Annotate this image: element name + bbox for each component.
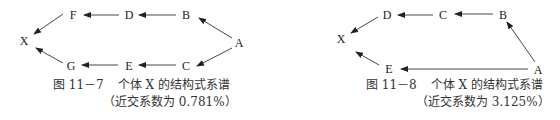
figure-number: 图 11－8 — [366, 78, 417, 92]
edge-d-x — [351, 17, 378, 33]
node-x: X — [337, 33, 346, 45]
node-a: A — [534, 64, 543, 76]
node-c: C — [439, 9, 447, 21]
figure-note: （近交系数为 3.125%） — [416, 95, 550, 109]
edge-e-x — [356, 52, 379, 65]
figure-title: 个体 X 的结构式系谱 — [431, 78, 543, 92]
figure-caption: 图 11－8个体 X 的结构式系谱 — [366, 78, 543, 92]
node-e: E — [385, 63, 392, 75]
node-b: B — [499, 9, 507, 21]
pedigree-diagram-11-8: X D C B E A 图 11－8个体 X 的结构式系谱 （近交系数为 3.1… — [0, 0, 560, 120]
node-d: D — [383, 9, 392, 21]
edge-a-b — [507, 22, 535, 62]
